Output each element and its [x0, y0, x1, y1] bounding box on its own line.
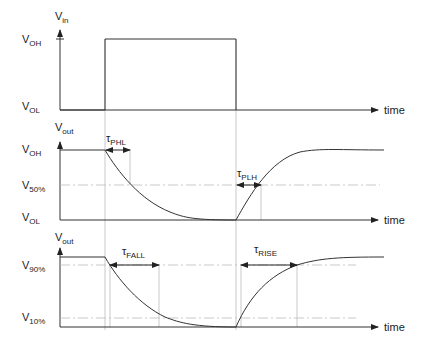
vol-label: VOL [22, 100, 41, 115]
trise-label: τRISE [254, 243, 277, 258]
svg-text:Vout: Vout [55, 231, 74, 246]
svg-text:V50%: V50% [22, 179, 45, 194]
transition-panel: Vout V90% V10% τFALL τRISE time [22, 231, 405, 333]
time-label: time [384, 104, 405, 116]
svg-text:VOH: VOH [22, 143, 42, 158]
vertical-guides [105, 39, 297, 330]
svg-text:V90%: V90% [22, 259, 45, 274]
voh-label: VOH [22, 33, 42, 48]
input-panel: Vin VOH VOL time [22, 10, 405, 116]
svg-text:VOL: VOL [22, 211, 41, 226]
tfall-label: τFALL [122, 245, 146, 260]
delay-panel: Vout VOH V50% VOL τPHL τPLH time [22, 121, 405, 226]
timing-diagram: Vin VOH VOL time Vout VOH V50% VOL τPHL … [0, 0, 422, 347]
vout-transition-waveform [60, 257, 384, 327]
svg-text:V10%: V10% [22, 311, 45, 326]
svg-text:time: time [384, 321, 405, 333]
input-pulse [60, 39, 236, 110]
vout-label: Vout [55, 121, 74, 136]
tphl-label: τPHL [106, 132, 126, 147]
tplh-label: τPLH [237, 167, 257, 182]
svg-text:time: time [384, 214, 405, 226]
vin-label: Vin [55, 10, 69, 25]
